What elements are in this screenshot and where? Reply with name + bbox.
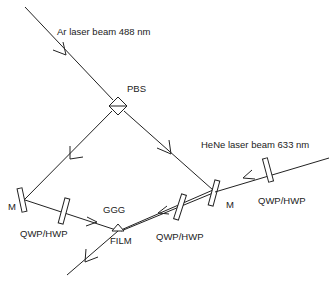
middle-plate-icon — [174, 194, 187, 220]
film-prism-icon — [112, 224, 124, 231]
right-plate-label: QWP/HWP — [258, 196, 306, 206]
middle-plate-label: QWP/HWP — [156, 232, 204, 242]
left-beam-arrow-icon — [70, 146, 83, 159]
left-beam-line — [25, 111, 112, 199]
left-mirror-label: M — [8, 202, 16, 212]
right-plate-icon — [262, 158, 273, 182]
output-beam-arrow-icon — [85, 249, 98, 262]
right-mirror-label: M — [226, 200, 234, 210]
hene-beam-label: HeNe laser beam 633 nm — [201, 140, 309, 150]
hene-beam-arrow-icon — [243, 170, 255, 179]
right-to-film-beam-line-2 — [121, 193, 213, 231]
ggg-label: GGG — [103, 205, 125, 215]
pbs-cube-icon — [109, 97, 127, 115]
ar-beam-label: Ar laser beam 488 nm — [57, 27, 150, 37]
right-mirror-icon — [208, 180, 220, 206]
left-plate-label: QWP/HWP — [20, 229, 68, 239]
optical-setup-diagram: Ar laser beam 488 nm PBS HeNe laser beam… — [0, 0, 329, 287]
ar-beam-line — [25, 7, 113, 100]
film-label: FILM — [110, 236, 132, 246]
right-beam-line — [124, 111, 213, 190]
pbs-label: PBS — [127, 84, 146, 94]
right-to-film-beam-line — [121, 190, 213, 230]
